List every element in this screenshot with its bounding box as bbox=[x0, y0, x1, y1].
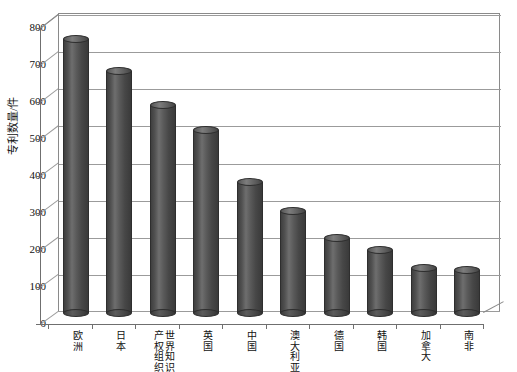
x-axis-category-label: 加拿大 bbox=[409, 330, 439, 362]
bar-top-ellipse bbox=[367, 246, 393, 254]
x-axis-category-label: 世界知识产权组织 bbox=[148, 330, 178, 372]
bar-top-ellipse bbox=[411, 264, 437, 272]
x-axis-tick-mark bbox=[309, 324, 310, 329]
x-axis-label-column: 韩国 bbox=[375, 330, 386, 351]
y-axis-tick-mark bbox=[36, 176, 41, 177]
x-axis-tick-mark bbox=[396, 324, 397, 329]
bar bbox=[193, 130, 219, 313]
bar bbox=[324, 238, 350, 313]
x-axis-tick-mark bbox=[483, 324, 484, 329]
bar-bottom-ellipse bbox=[106, 309, 132, 317]
bar-top-ellipse bbox=[150, 101, 176, 109]
x-axis-category-label: 欧洲 bbox=[61, 330, 91, 351]
bar bbox=[367, 250, 393, 313]
bar-bottom-ellipse bbox=[324, 309, 350, 317]
bar bbox=[411, 268, 437, 313]
x-axis-tick-mark bbox=[222, 324, 223, 329]
bar-top-ellipse bbox=[280, 207, 306, 215]
y-axis-tick-mark bbox=[36, 287, 41, 288]
bar-top-ellipse bbox=[106, 67, 132, 75]
bar-bottom-ellipse bbox=[193, 309, 219, 317]
bar-top-ellipse bbox=[454, 266, 480, 274]
bar-bottom-ellipse bbox=[150, 309, 176, 317]
y-axis-tick-mark bbox=[36, 324, 41, 325]
y-axis-tick-mark bbox=[36, 250, 41, 251]
x-axis-category-label: 韩国 bbox=[365, 330, 395, 351]
y-axis-tick-mark bbox=[36, 28, 41, 29]
x-axis-tick-mark bbox=[266, 324, 267, 329]
bar bbox=[150, 105, 176, 313]
y-axis-tick-mark bbox=[36, 102, 41, 103]
x-axis-label-column: 世界知识 bbox=[163, 330, 174, 372]
bar-bottom-ellipse bbox=[63, 309, 89, 317]
x-axis-label-column: 南非 bbox=[462, 330, 473, 351]
x-axis-tick-mark bbox=[353, 324, 354, 329]
bar-top-ellipse bbox=[324, 234, 350, 242]
x-axis-category-label: 英国 bbox=[191, 330, 221, 351]
x-axis-label-column: 德国 bbox=[332, 330, 343, 351]
y-axis-tick-mark bbox=[36, 213, 41, 214]
bar-top-ellipse bbox=[63, 35, 89, 43]
x-axis-label-column: 日本 bbox=[114, 330, 125, 351]
x-axis-label-column: 加拿大 bbox=[419, 330, 430, 362]
bar-bottom-ellipse bbox=[237, 309, 263, 317]
bar-bottom-ellipse bbox=[280, 309, 306, 317]
x-axis-label-column: 产权组织 bbox=[152, 330, 163, 372]
x-axis-label-column: 欧洲 bbox=[71, 330, 82, 351]
y-axis-tick-mark bbox=[36, 65, 41, 66]
bar bbox=[63, 39, 89, 313]
x-axis-category-label: 南非 bbox=[452, 330, 482, 351]
x-axis-category-label: 日本 bbox=[104, 330, 134, 351]
bar bbox=[237, 182, 263, 313]
x-axis-tick-mark bbox=[179, 324, 180, 329]
x-axis-category-label: 澳大利亚 bbox=[278, 330, 308, 372]
bar-top-ellipse bbox=[237, 178, 263, 186]
bar-bottom-ellipse bbox=[454, 309, 480, 317]
x-axis-label-column: 英国 bbox=[201, 330, 212, 351]
x-axis-labels: 欧洲日本世界知识产权组织英国中国澳大利亚德国韩国加拿大南非 bbox=[0, 330, 517, 371]
y-axis-tick-mark bbox=[36, 139, 41, 140]
x-axis-category-label: 德国 bbox=[322, 330, 352, 351]
bar-top-ellipse bbox=[193, 126, 219, 134]
x-axis-label-column: 澳大利亚 bbox=[288, 330, 299, 372]
x-axis-label-column: 中国 bbox=[245, 330, 256, 351]
bar-bottom-ellipse bbox=[411, 309, 437, 317]
x-axis-tick-mark bbox=[48, 324, 49, 329]
x-axis-tick-mark bbox=[92, 324, 93, 329]
x-axis-tick-mark bbox=[440, 324, 441, 329]
bar-bottom-ellipse bbox=[367, 309, 393, 317]
bar bbox=[280, 211, 306, 313]
bar bbox=[106, 71, 132, 313]
bar bbox=[454, 270, 480, 313]
x-axis-category-label: 中国 bbox=[235, 330, 265, 351]
x-axis-tick-mark bbox=[135, 324, 136, 329]
